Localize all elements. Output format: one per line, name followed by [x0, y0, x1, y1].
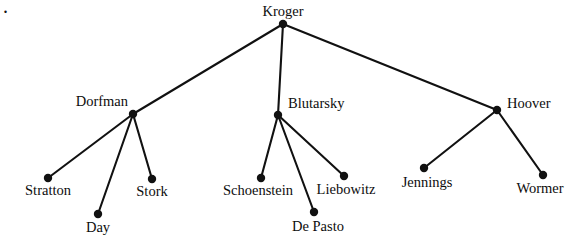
tree-node-liebowitz[interactable] — [340, 172, 348, 180]
node-label-stratton: Stratton — [25, 183, 71, 198]
node-label-schoenstein: Schoenstein — [223, 183, 293, 198]
node-layer — [44, 20, 547, 218]
tree-node-wormer[interactable] — [539, 171, 547, 179]
node-label-dorfman: Dorfman — [76, 94, 128, 109]
tree-node-hoover[interactable] — [493, 106, 501, 114]
tree-edge — [497, 110, 543, 175]
tree-node-depasto[interactable] — [310, 208, 318, 216]
tree-node-jennings[interactable] — [420, 164, 428, 172]
node-label-blutarsky: Blutarsky — [288, 96, 344, 111]
tree-diagram: . KrogerDorfmanBlutarskyHooverStrattonDa… — [0, 0, 568, 243]
tree-node-dorfman[interactable] — [129, 110, 137, 118]
tree-edge — [278, 115, 344, 176]
tree-edge — [278, 24, 283, 115]
tree-edge — [98, 114, 133, 214]
tree-edge — [424, 110, 497, 168]
tree-node-stork[interactable] — [148, 175, 156, 183]
tree-graph-canvas — [0, 0, 568, 243]
tree-edge — [261, 115, 278, 178]
node-label-kroger: Kroger — [262, 4, 303, 19]
tree-node-day[interactable] — [94, 210, 102, 218]
tree-edge — [133, 24, 283, 114]
edge-layer — [48, 24, 543, 214]
node-label-hoover: Hoover — [507, 96, 551, 111]
tree-edge — [48, 114, 133, 178]
node-label-jennings: Jennings — [402, 175, 453, 190]
tree-node-blutarsky[interactable] — [274, 111, 282, 119]
tree-node-kroger[interactable] — [279, 20, 287, 28]
node-label-depasto: De Pasto — [292, 219, 344, 234]
tree-edge — [133, 114, 152, 179]
node-label-day: Day — [86, 220, 110, 235]
node-label-wormer: Wormer — [516, 181, 563, 196]
tree-node-stratton[interactable] — [44, 174, 52, 182]
node-label-stork: Stork — [136, 184, 167, 199]
tree-node-schoenstein[interactable] — [257, 174, 265, 182]
node-label-liebowitz: Liebowitz — [317, 182, 376, 197]
